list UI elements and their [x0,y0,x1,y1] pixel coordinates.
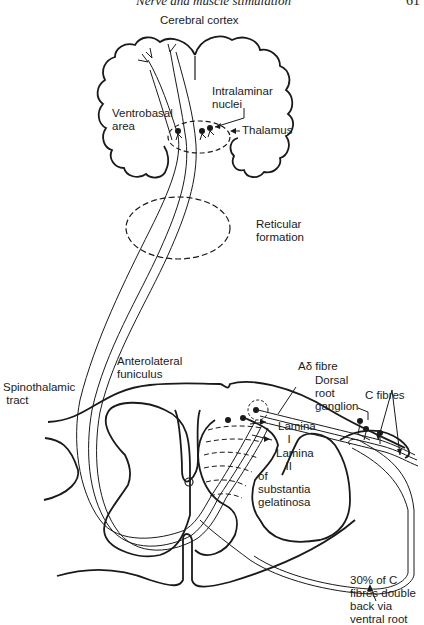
label-ventrobasal-area: Ventrobasal area [112,107,173,133]
dorsal-horn-neurons [225,407,259,423]
label-a-delta-fibre: Aδ fibre [298,360,338,373]
label-spinothalamic-tract: Spinothalamic tract [3,381,75,407]
label-reticular-formation: Reticular formation [256,218,304,244]
label-cerebral-cortex: Cerebral cortex [160,14,239,27]
label-dorsal-root-ganglion: Dorsal root ganglion [315,374,358,413]
label-substantia-gelatinosa: of substantia gelatinosa [258,470,310,509]
label-anterolateral-funiculus: Anterolateral funiculus [117,355,182,381]
label-c-fibres-ventral-root: 30% of C fibres double back via ventral … [350,574,416,625]
label-thalamus: Thalamus [242,124,293,137]
label-c-fibres: C fibres [365,389,405,402]
label-intralaminar-nuclei: Intralaminar nuclei [212,85,273,111]
reticular-formation-region [126,197,230,259]
label-lamina-i: Lamina I [278,420,316,446]
